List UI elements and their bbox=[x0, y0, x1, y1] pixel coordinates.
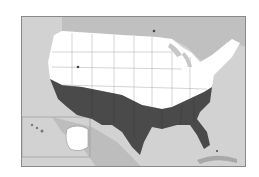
us-map-graphic bbox=[22, 17, 246, 167]
us-map bbox=[21, 16, 246, 167]
